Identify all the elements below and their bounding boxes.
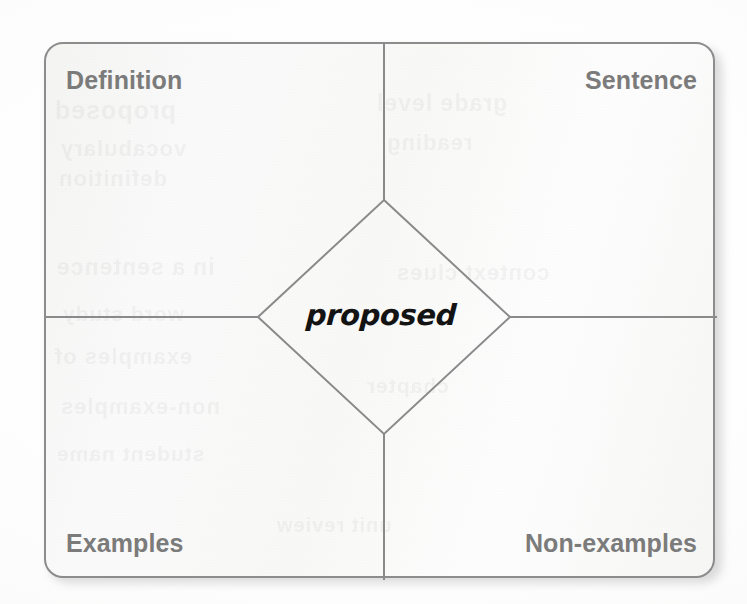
frayer-model-card: proposed vocabulary definition in a sent… xyxy=(44,42,715,578)
center-vocabulary-term: proposed xyxy=(260,298,502,332)
quadrant-label-definition: Definition xyxy=(66,66,182,95)
quadrant-label-sentence: Sentence xyxy=(585,66,697,95)
quadrant-label-examples: Examples xyxy=(66,529,184,558)
worksheet-page: proposed vocabulary definition in a sent… xyxy=(0,0,747,604)
quadrant-label-non-examples: Non-examples xyxy=(525,529,697,558)
